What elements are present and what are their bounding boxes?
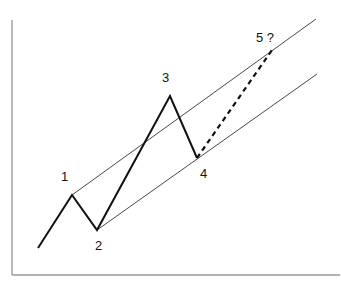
projected-wave-5: [197, 50, 272, 158]
label-point-3: 3: [162, 70, 169, 85]
upper-channel-line: [72, 19, 316, 195]
label-point-5: 5 ?: [256, 30, 274, 45]
label-point-4: 4: [200, 166, 207, 181]
label-point-2: 2: [95, 238, 102, 253]
label-point-1: 1: [61, 169, 68, 184]
wave-diagram: 1 2 3 4 5 ?: [0, 0, 341, 290]
